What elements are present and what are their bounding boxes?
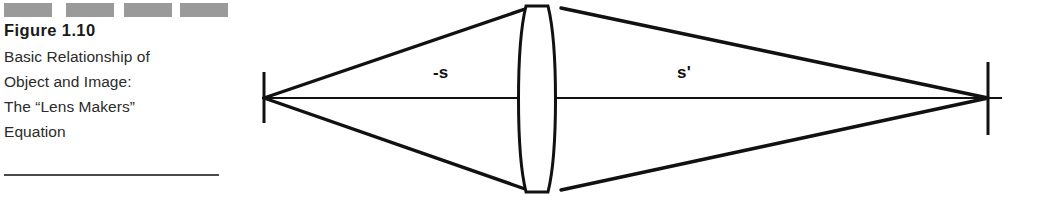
decorative-dash-3 — [124, 3, 172, 17]
decorative-dash-1 — [4, 3, 52, 17]
object-ray-lower — [264, 98, 528, 190]
caption-divider-rule — [4, 174, 219, 176]
caption-line-3: The “Lens Makers” — [4, 94, 228, 119]
image-ray-upper — [561, 8, 988, 98]
optics-ray-diagram: -s s' — [236, 0, 1046, 203]
decorative-dash-4 — [180, 3, 228, 17]
caption-line-4: Equation — [4, 119, 228, 144]
ray-diagram-canvas — [236, 0, 1046, 203]
image-distance-label: s' — [677, 63, 691, 83]
image-ray-lower — [561, 98, 988, 190]
biconvex-lens — [519, 6, 556, 192]
object-distance-label: -s — [433, 63, 449, 83]
caption-line-1: Basic Relationship of — [4, 44, 228, 69]
decorative-dash-2 — [66, 3, 114, 17]
figure-page: Figure 1.10 Basic Relationship of Object… — [0, 0, 1046, 203]
figure-caption-block: Figure 1.10 Basic Relationship of Object… — [0, 0, 232, 203]
caption-line-2: Object and Image: — [4, 69, 228, 94]
figure-number: Figure 1.10 — [4, 21, 96, 40]
figure-caption-text: Basic Relationship of Object and Image: … — [4, 44, 228, 144]
decorative-dash-row — [4, 3, 228, 17]
object-ray-upper — [264, 8, 528, 98]
